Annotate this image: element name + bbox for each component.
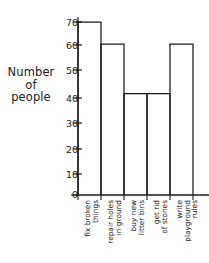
- x-axis-label-0-line-2: things: [92, 200, 100, 260]
- bar: [124, 94, 147, 195]
- bar-group: [78, 22, 193, 195]
- x-axis-label-3-line-2: of stones: [161, 200, 169, 260]
- x-axis-label-2: buy new litter bins: [130, 200, 146, 260]
- bar: [147, 94, 170, 195]
- x-axis-label-3: get rid of stones: [153, 200, 169, 260]
- x-axis-label-4-line-3: rules: [191, 200, 199, 260]
- x-axis-label-2-line-2: litter bins: [138, 200, 146, 260]
- x-axis-label-1-line-2: in ground: [115, 200, 123, 260]
- bar: [170, 44, 193, 195]
- x-axis-label-0: fix broken things: [84, 200, 100, 260]
- bar-chart: Number of people 70 60 50 40 30 20 10 0: [0, 0, 209, 263]
- bar: [78, 22, 101, 195]
- x-axis-label-4: write playground rules: [176, 200, 192, 260]
- x-axis-label-1: repair holes in ground: [107, 200, 123, 260]
- bar: [101, 44, 124, 195]
